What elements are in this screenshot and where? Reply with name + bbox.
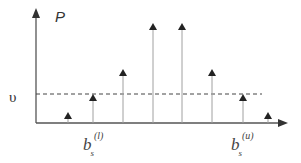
triangle-marker-icon (119, 69, 127, 76)
lower-bound-label: bs(l) (83, 134, 103, 156)
stem-plot (0, 0, 301, 163)
triangle-marker-icon (89, 94, 97, 101)
triangle-marker-icon (178, 23, 186, 30)
triangle-marker-icon (239, 94, 247, 101)
x-axis-arrow-icon (278, 119, 288, 127)
triangle-markers (64, 23, 272, 119)
upper-bound-label: bs(u) (231, 134, 254, 156)
triangle-marker-icon (208, 69, 216, 76)
upper-bound-sub: s (239, 148, 243, 158)
triangle-marker-icon (64, 112, 72, 119)
lower-bound-sub: s (91, 148, 95, 158)
lower-bound-sup: (l) (94, 130, 103, 141)
y-axis-arrow-icon (32, 8, 40, 18)
triangle-marker-icon (149, 23, 157, 30)
threshold-label: υ (9, 89, 16, 106)
y-axis-label: P (55, 8, 65, 25)
triangle-marker-icon (264, 112, 272, 119)
stems (68, 28, 268, 123)
upper-bound-sup: (u) (242, 130, 254, 141)
